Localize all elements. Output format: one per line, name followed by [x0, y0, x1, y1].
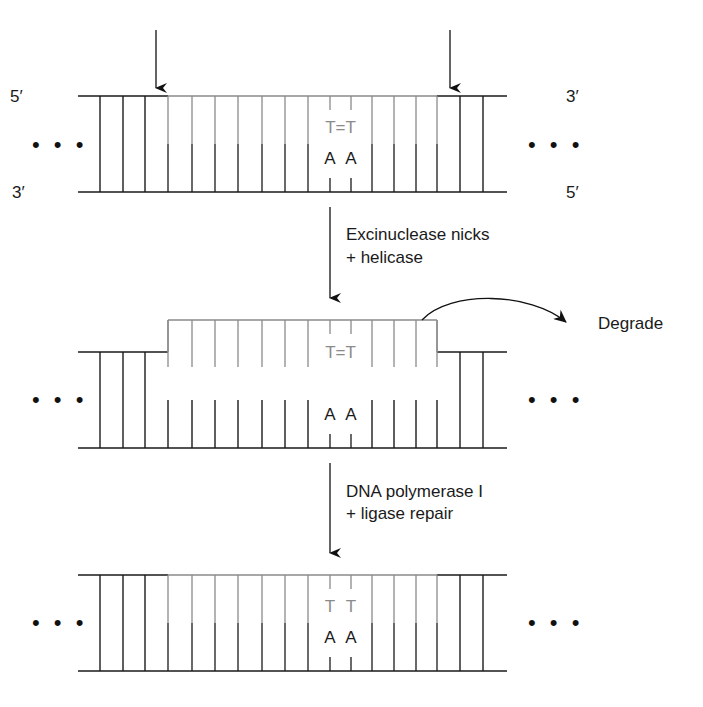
- thymine-dimer-label: T=T: [325, 118, 356, 137]
- adenine-label: A: [324, 149, 336, 168]
- ellipsis-left-3: • • •: [32, 610, 87, 635]
- degrade-label: Degrade: [598, 314, 663, 333]
- panel-excised-fragment: T=TAA: [78, 320, 507, 448]
- adenine-label: A: [345, 628, 357, 647]
- step2-line2: + ligase repair: [346, 504, 454, 523]
- adenine-label: A: [345, 149, 357, 168]
- end-label-5prime-bottom-right: 5′: [566, 183, 579, 202]
- thymine-dimer-label: T=T: [325, 343, 356, 362]
- step1-line2: + helicase: [346, 248, 423, 267]
- ellipsis-right-1: • • •: [528, 132, 583, 157]
- step2-line1: DNA polymerase I: [346, 482, 483, 501]
- ellipsis-left-2: • • •: [32, 387, 87, 412]
- excision-repair-diagram: T=TAA 5′ 3′ 3′ 5′ • • • • • • Excinuclea…: [0, 0, 703, 707]
- thymine-label: T: [325, 597, 335, 616]
- adenine-label: A: [345, 405, 357, 424]
- ellipsis-right-3: • • •: [528, 610, 583, 635]
- ellipsis-right-2: • • •: [528, 387, 583, 412]
- end-label-3prime-top-right: 3′: [566, 87, 579, 106]
- adenine-label: A: [324, 405, 336, 424]
- thymine-label: T: [346, 597, 356, 616]
- panel-repaired-dna: TTAA: [78, 575, 507, 671]
- adenine-label: A: [324, 628, 336, 647]
- step1-line1: Excinuclease nicks: [346, 225, 490, 244]
- degrade-curved-arrow: [422, 298, 566, 322]
- end-label-5prime-top-left: 5′: [10, 87, 23, 106]
- ellipsis-left-1: • • •: [32, 132, 87, 157]
- panel-damaged-dna: T=TAA: [78, 96, 507, 192]
- end-label-3prime-bottom-left: 3′: [12, 183, 25, 202]
